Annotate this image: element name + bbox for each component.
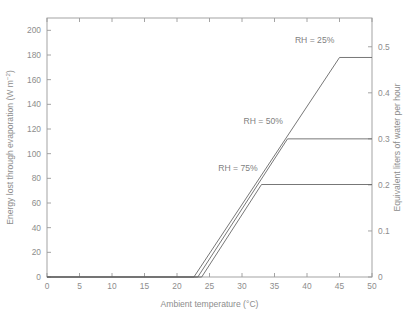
y-right-tick-label: 0.4: [378, 88, 390, 98]
y-left-tick-label: 80: [32, 173, 42, 183]
y-left-tick-label: 100: [27, 149, 41, 159]
plot-frame: [47, 18, 372, 277]
y-axis-left-tick-labels: 020406080100120140160180200: [27, 25, 41, 282]
data-series-group: [47, 57, 372, 277]
y-axis-left-tick-marks: [47, 30, 51, 277]
y-left-tick-label: 140: [27, 99, 41, 109]
y-right-tick-label: 0.3: [378, 134, 390, 144]
y-left-tick-label: 20: [32, 247, 42, 257]
x-tick-label: 10: [107, 281, 117, 291]
x-tick-label: 35: [270, 281, 280, 291]
evaporative-cooling-chart: 05101520253035404550 0204060801001201401…: [0, 0, 407, 317]
y-right-tick-label: 0.1: [378, 226, 390, 236]
x-tick-label: 30: [237, 281, 247, 291]
y-right-tick-label: 0: [378, 272, 383, 282]
y-axis-left-title-main: Energy lost through evaporation (W m: [5, 80, 15, 225]
x-tick-label: 50: [367, 281, 377, 291]
x-axis-tick-labels: 05101520253035404550: [45, 281, 377, 291]
x-tick-label: 5: [77, 281, 82, 291]
y-left-tick-label: 200: [27, 25, 41, 35]
y-axis-left-title: Energy lost through evaporation (W m−2): [4, 70, 15, 225]
x-axis-title: Ambient temperature (°C): [160, 299, 258, 309]
y-left-tick-label: 160: [27, 75, 41, 85]
x-tick-label: 0: [45, 281, 50, 291]
y-left-tick-label: 60: [32, 198, 42, 208]
y-left-tick-label: 180: [27, 50, 41, 60]
y-left-tick-label: 120: [27, 124, 41, 134]
x-tick-label: 40: [302, 281, 312, 291]
x-tick-label: 15: [140, 281, 150, 291]
y-axis-right-tick-labels: 00.10.20.30.40.5: [378, 42, 390, 282]
y-left-tick-label: 40: [32, 223, 42, 233]
series-label: RH = 50%: [244, 116, 284, 126]
y-axis-right-title: Equivalent liters of water per hour: [392, 83, 402, 211]
y-axis-right-tick-marks: [368, 47, 372, 277]
y-right-tick-label: 0.5: [378, 42, 390, 52]
y-axis-left-title-tail: ): [5, 70, 15, 73]
y-left-tick-label: 0: [36, 272, 41, 282]
y-right-tick-label: 0.2: [378, 180, 390, 190]
series-label: RH = 25%: [295, 35, 335, 45]
chart-canvas: 05101520253035404550 0204060801001201401…: [0, 0, 407, 317]
x-tick-label: 25: [205, 281, 215, 291]
series-line: [47, 57, 372, 277]
series-line: [47, 139, 372, 277]
series-line: [47, 185, 372, 278]
x-tick-label: 20: [172, 281, 182, 291]
series-label: RH = 75%: [218, 163, 258, 173]
x-tick-label: 45: [335, 281, 345, 291]
x-axis-tick-marks: [47, 18, 372, 277]
